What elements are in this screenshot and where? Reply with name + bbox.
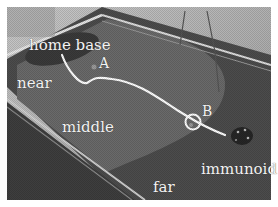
label-middle: middle bbox=[62, 120, 114, 135]
label-point-a: A bbox=[99, 56, 109, 70]
label-far: far bbox=[153, 180, 175, 195]
figure: home base A near middle B immunoid far bbox=[0, 0, 278, 207]
label-point-b: B bbox=[202, 104, 212, 118]
label-immunoid: immunoid bbox=[201, 162, 277, 177]
label-home-base: home base bbox=[29, 38, 111, 53]
label-near: near bbox=[17, 76, 52, 91]
